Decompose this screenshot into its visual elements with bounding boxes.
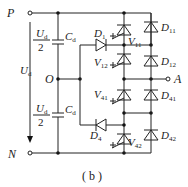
label-d41: D41 [160, 89, 176, 103]
label-half-top-num: Ud [36, 27, 48, 41]
label-d42: D42 [160, 129, 176, 143]
label-d4: D4 [89, 129, 102, 143]
label-half-bottom-num: Ud [36, 102, 48, 116]
label-v12: V12 [94, 56, 108, 70]
label-p: P [6, 6, 15, 20]
label-v41: V41 [94, 88, 108, 102]
label-d12: D12 [160, 55, 176, 69]
label-d1: D1 [93, 27, 106, 41]
npc-inverter-schematic: P N O A Ud Ud 2 Ud 2 Cd Cd D1 D4 V11 V12… [0, 0, 188, 187]
terminal-n [28, 151, 32, 155]
label-d11: D11 [160, 21, 176, 35]
label-o: O [45, 72, 54, 86]
terminal-a [166, 77, 170, 81]
label-cd-top: Cd [65, 30, 76, 44]
terminal-p [28, 11, 32, 15]
label-half-top-den: 2 [38, 41, 44, 53]
label-half-bottom-den: 2 [38, 116, 44, 128]
label-cd-bottom: Cd [65, 103, 76, 117]
label-v42: V42 [128, 136, 142, 150]
label-a: A [173, 72, 182, 86]
label-n: N [7, 147, 17, 161]
label-v11: V11 [128, 35, 142, 49]
figure-caption: ( b ) [82, 169, 102, 183]
